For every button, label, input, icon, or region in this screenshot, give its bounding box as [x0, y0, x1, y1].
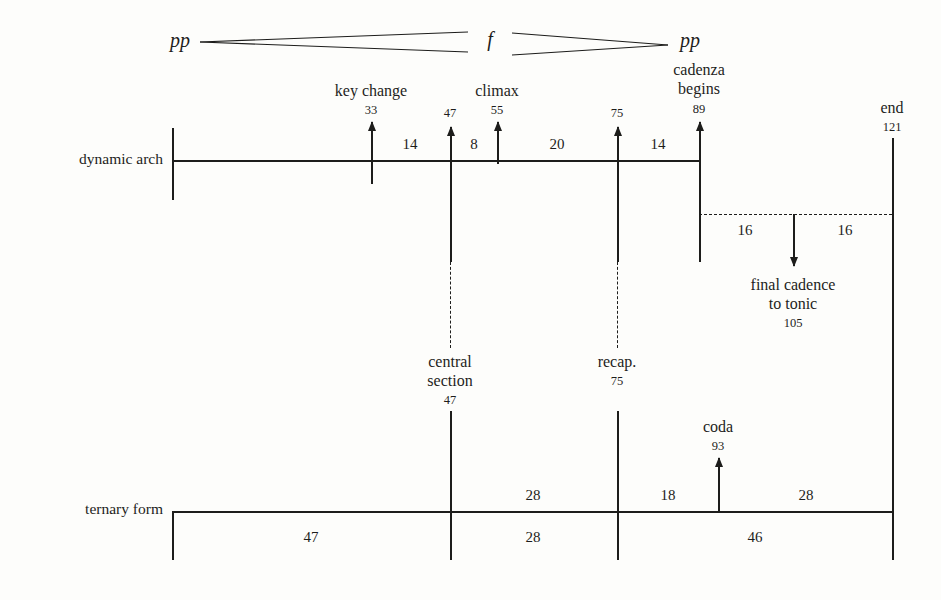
ternary-span-47-75: 28 — [526, 487, 541, 503]
ternary-section-a: 47 — [304, 529, 319, 545]
row-label-dynamic-arch: dynamic arch — [79, 151, 163, 168]
ternary-form-line — [172, 511, 893, 513]
label-key-change: key change — [335, 82, 407, 99]
dynamic-marking-end: pp — [680, 30, 700, 52]
span-47-55: 8 — [470, 136, 478, 152]
label-cadenza-line1: cadenza — [673, 61, 725, 78]
label-central-section-line2: section — [427, 372, 472, 389]
bar-number-central-section: 47 — [444, 394, 457, 408]
label-recap: recap. — [598, 353, 637, 370]
ternary-divider-start — [172, 511, 174, 560]
span-55-75: 20 — [550, 136, 565, 152]
bar-number-key-change: 33 — [365, 104, 378, 118]
label-coda: coda — [703, 418, 733, 435]
bar-number-end: 121 — [883, 121, 902, 135]
arrow-climax — [497, 122, 499, 164]
arrow-key-change — [371, 122, 373, 184]
arrow-central-section — [450, 127, 452, 262]
label-final-cadence-line2: to tonic — [769, 295, 817, 312]
bar-number-recap-top: 75 — [611, 107, 624, 121]
ternary-divider-47 — [450, 411, 452, 560]
axis-start-tick — [172, 128, 174, 200]
bar-number-coda: 93 — [712, 440, 725, 454]
bar-number-cadenza: 89 — [693, 103, 706, 117]
bar-number-final-cadence: 105 — [784, 317, 803, 331]
span-33-47: 14 — [403, 136, 418, 152]
dynamic-marking-peak: f — [487, 29, 493, 51]
arrow-coda — [718, 458, 720, 511]
label-central-section-line1: central — [428, 353, 472, 370]
ternary-section-a1: 46 — [748, 529, 763, 545]
recap-dashed-drop — [617, 262, 618, 348]
label-climax: climax — [475, 82, 519, 99]
cadenza-dashed-line — [699, 214, 892, 215]
label-cadenza-line2: begins — [678, 80, 720, 97]
span-105-121: 16 — [838, 222, 853, 238]
end-vertical-line — [892, 138, 894, 560]
ternary-divider-75 — [617, 411, 619, 560]
central-section-dashed-drop — [450, 262, 451, 348]
span-75-89: 14 — [651, 136, 666, 152]
arrow-recap — [617, 127, 619, 262]
label-end: end — [880, 99, 903, 116]
row-label-ternary-form: ternary form — [85, 501, 163, 518]
arrow-cadenza — [699, 122, 701, 262]
form-diagram: pp f pp key change 33 climax 55 cadenza … — [0, 0, 941, 600]
label-final-cadence-line1: final cadence — [751, 276, 836, 293]
ternary-section-b: 28 — [526, 529, 541, 545]
bar-number-climax: 55 — [491, 104, 504, 118]
dynamic-marking-start: pp — [170, 30, 190, 52]
ternary-span-93-121: 28 — [799, 487, 814, 503]
span-89-105: 16 — [738, 222, 753, 238]
bar-number-central-section-top: 47 — [444, 107, 457, 121]
dynamic-arch-line — [172, 160, 700, 162]
arrow-final-cadence — [793, 214, 795, 266]
bar-number-recap: 75 — [611, 375, 624, 389]
ternary-span-75-93: 18 — [661, 487, 676, 503]
